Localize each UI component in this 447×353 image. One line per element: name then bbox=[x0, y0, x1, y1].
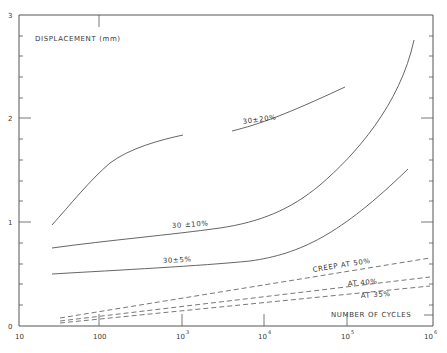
curve-30-10 bbox=[52, 40, 414, 248]
curve-30-20 bbox=[52, 135, 183, 225]
svg-text:10: 10 bbox=[424, 333, 433, 341]
x-tick-1e5: 10 5 bbox=[341, 329, 354, 341]
y-tick-1: 1 bbox=[8, 219, 12, 227]
creep-35-label: AT 35% bbox=[361, 290, 391, 300]
svg-text:10: 10 bbox=[176, 333, 185, 341]
creep-50-line bbox=[60, 258, 430, 318]
y-tick-3: 3 bbox=[8, 12, 12, 20]
curve-label-30-20: 30±20% bbox=[242, 113, 277, 126]
curve-30-5 bbox=[52, 169, 408, 274]
svg-text:10: 10 bbox=[258, 333, 267, 341]
svg-text:3: 3 bbox=[186, 329, 189, 335]
y-tick-2: 2 bbox=[8, 115, 12, 123]
x-tick-1e6: 10 6 bbox=[424, 329, 437, 341]
curve-label-30-10: 30 ±10% bbox=[172, 219, 209, 230]
creep-50-label: CREEP AT 50% bbox=[312, 257, 371, 274]
x-axis-label: NUMBER OF CYCLES bbox=[331, 311, 411, 319]
svg-text:10: 10 bbox=[341, 333, 350, 341]
creep-40-label: AT 40% bbox=[347, 277, 377, 288]
x-axis-ticks bbox=[99, 15, 347, 326]
x-tick-1e3: 10 3 bbox=[176, 329, 189, 341]
y-tick-0: 0 bbox=[8, 323, 12, 331]
x-tick-1e4: 10 4 bbox=[258, 329, 271, 341]
svg-text:4: 4 bbox=[268, 329, 271, 335]
svg-text:5: 5 bbox=[351, 329, 354, 335]
displacement-vs-cycles-chart: 3 2 1 0 10 100 10 3 10 4 10 5 10 6 DISPL… bbox=[0, 0, 447, 353]
curve-label-30-5: 30±5% bbox=[163, 255, 192, 265]
svg-text:6: 6 bbox=[434, 329, 437, 335]
x-tick-10: 10 bbox=[15, 333, 24, 341]
x-tick-100: 100 bbox=[93, 333, 106, 341]
y-axis-label: DISPLACEMENT (mm) bbox=[35, 35, 121, 43]
